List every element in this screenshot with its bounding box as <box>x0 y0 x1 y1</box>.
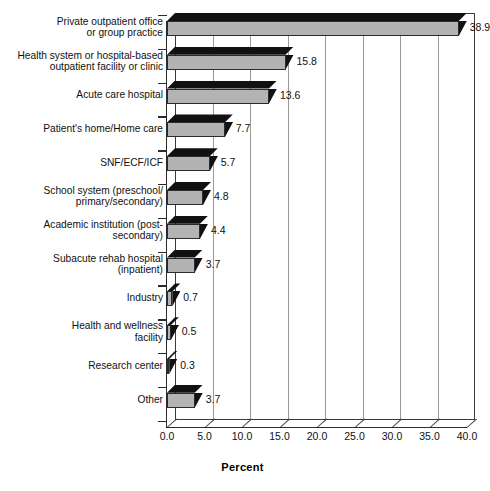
bar-top-face <box>167 317 179 325</box>
gridline <box>363 13 364 419</box>
bar-top-face <box>167 182 211 190</box>
gridline <box>438 13 439 419</box>
category-label: SNF/ECF/ICF <box>11 157 163 169</box>
bar <box>167 47 294 62</box>
bar <box>167 283 180 298</box>
value-label: 4.8 <box>214 191 229 202</box>
bar-top-face <box>167 114 233 122</box>
category-label-line: SNF/ECF/ICF <box>11 157 163 169</box>
x-axis-tick-label: 15.0 <box>260 430 300 442</box>
gridline <box>400 13 401 419</box>
gridline <box>213 13 214 419</box>
bar-top-face <box>167 81 277 89</box>
gridline <box>250 13 251 419</box>
bar <box>167 13 467 28</box>
bar-front-face <box>167 21 459 36</box>
bar-top-face <box>167 250 203 258</box>
value-label: 0.7 <box>183 292 198 303</box>
category-label-line: (inpatient) <box>11 264 163 276</box>
bar-front-face <box>167 55 286 70</box>
category-label-line: Academic institution (post- <box>11 219 163 231</box>
bar <box>167 250 203 265</box>
category-label: Health system or hospital-basedoutpatien… <box>11 50 163 73</box>
bar <box>167 385 203 400</box>
x-axis-tick-label: 40.0 <box>447 430 487 442</box>
value-label: 3.7 <box>206 259 221 270</box>
bar-front-face <box>167 224 200 239</box>
gridline <box>288 13 289 419</box>
bar <box>167 216 208 231</box>
category-label-line: outpatient facility or clinic <box>11 61 163 73</box>
value-label: 0.3 <box>180 360 195 371</box>
category-label: Other <box>11 394 163 406</box>
x-axis-tick-label: 5.0 <box>185 430 225 442</box>
bar <box>167 81 277 96</box>
x-axis-tick-label: 25.0 <box>335 430 375 442</box>
bar-front-face <box>167 258 195 273</box>
category-label-line: Industry <box>11 292 163 304</box>
category-label-line: Health and wellness <box>11 320 163 332</box>
x-axis-tick-label: 0.0 <box>147 430 187 442</box>
category-label: Academic institution (post-secondary) <box>11 219 163 242</box>
value-label: 4.4 <box>211 225 226 236</box>
bar-front-face <box>167 393 195 408</box>
category-label-line: facility <box>11 332 163 344</box>
bar-front-face <box>167 359 169 374</box>
bar-top-face <box>167 13 467 21</box>
category-label-line: or group practice <box>11 27 163 39</box>
category-label-line: Health system or hospital-based <box>11 50 163 62</box>
bar-front-face <box>167 325 171 340</box>
y-axis-tick <box>158 116 167 117</box>
category-label-line: School system (preschool/ <box>11 185 163 197</box>
bar-top-face <box>167 283 180 291</box>
value-label: 0.5 <box>182 326 197 337</box>
gridline <box>325 13 326 419</box>
category-label-line: Research center <box>11 360 163 372</box>
y-axis-tick <box>158 150 167 151</box>
y-axis-tick <box>158 285 167 286</box>
x-axis-title: Percent <box>0 461 485 473</box>
category-label-line: Private outpatient office <box>11 16 163 28</box>
x-axis-back-line <box>175 419 475 420</box>
bar-front-face <box>167 89 269 104</box>
value-label: 38.9 <box>470 22 490 33</box>
value-label: 5.7 <box>221 157 236 168</box>
category-label: Research center <box>11 360 163 372</box>
x-axis-tick-label: 10.0 <box>222 430 262 442</box>
category-label-line: Subacute rehab hospital <box>11 253 163 265</box>
y-axis-tick <box>158 83 167 84</box>
y-axis-tick <box>158 421 167 422</box>
bar-top-face <box>167 47 294 55</box>
category-label: School system (preschool/primary/seconda… <box>11 185 163 208</box>
bar <box>167 351 177 366</box>
category-label: Industry <box>11 292 163 304</box>
category-label-line: Acute care hospital <box>11 89 163 101</box>
category-label: Subacute rehab hospital(inpatient) <box>11 253 163 276</box>
category-label: Health and wellnessfacility <box>11 320 163 343</box>
category-label-line: Patient's home/Home care <box>11 123 163 135</box>
category-label: Patient's home/Home care <box>11 123 163 135</box>
category-label: Private outpatient officeor group practi… <box>11 16 163 39</box>
bar <box>167 182 211 197</box>
bar-front-face <box>167 190 203 205</box>
category-label-line: Other <box>11 394 163 406</box>
value-label: 13.6 <box>280 90 300 101</box>
bar-front-face <box>167 156 210 171</box>
bar <box>167 114 233 129</box>
category-label-line: secondary) <box>11 230 163 242</box>
bar-top-face <box>167 148 218 156</box>
bar-front-face <box>167 122 225 137</box>
value-label: 3.7 <box>206 394 221 405</box>
value-label: 7.7 <box>236 123 251 134</box>
axis-tick-slant <box>467 419 477 428</box>
bar-top-face <box>167 216 208 224</box>
bar-top-face <box>167 385 203 393</box>
category-label-line: primary/secondary) <box>11 196 163 208</box>
x-axis-line <box>166 427 467 428</box>
bar <box>167 317 179 332</box>
bar <box>167 148 218 163</box>
y-axis-tick <box>158 387 167 388</box>
y-axis-tick <box>158 353 167 354</box>
bar-top-face <box>167 351 177 359</box>
